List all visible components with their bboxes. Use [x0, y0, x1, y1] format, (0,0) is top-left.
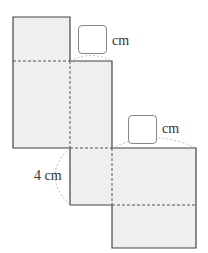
left-dimension-label: 4 cm [34, 169, 62, 183]
top-unit-label: cm [112, 34, 129, 48]
answer-box-right[interactable] [128, 115, 157, 144]
right-unit-label: cm [162, 122, 179, 136]
answer-box-top[interactable] [78, 25, 107, 54]
